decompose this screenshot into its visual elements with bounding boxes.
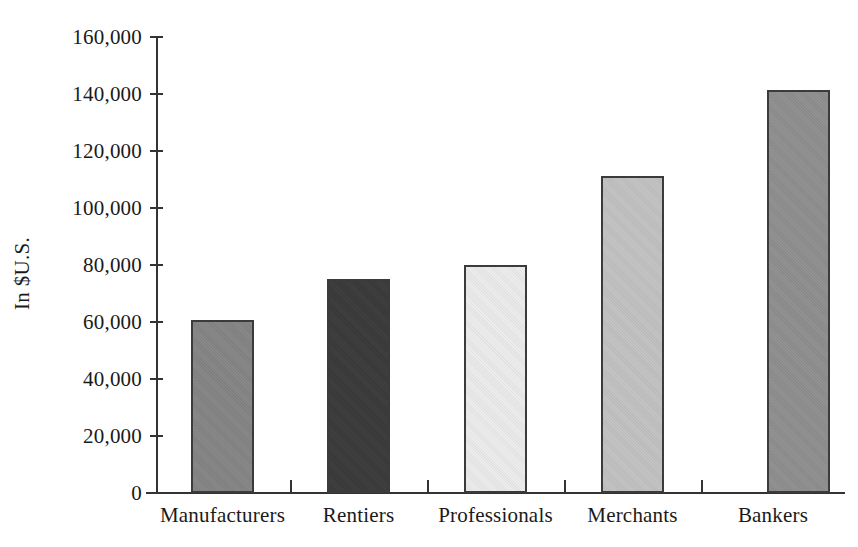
bar-rentiers[interactable] [327, 279, 390, 493]
y-axis-tick [150, 207, 163, 209]
x-axis-tick [290, 480, 292, 493]
x-category-label-manufacturers: Manufacturers [146, 503, 299, 528]
y-tick-label: 60,000 [30, 310, 142, 335]
y-tick-label: 0 [30, 481, 142, 506]
y-tick-label: 140,000 [30, 82, 142, 107]
bar-merchants[interactable] [601, 176, 664, 493]
y-axis-tick [150, 150, 163, 152]
x-axis-tick [701, 480, 703, 493]
x-axis-tick [564, 480, 566, 493]
y-tick-label: 80,000 [30, 253, 142, 278]
y-axis-tick [150, 36, 163, 38]
x-category-label-merchants: Merchants [564, 503, 701, 528]
y-tick-label: 120,000 [30, 139, 142, 164]
bar-bankers[interactable] [767, 90, 830, 493]
bar-manufacturers[interactable] [191, 320, 254, 493]
y-axis-tick [150, 264, 163, 266]
y-tick-label: 20,000 [30, 424, 142, 449]
x-category-label-bankers: Bankers [701, 503, 845, 528]
y-axis-tick [150, 93, 163, 95]
x-category-label-professionals: Professionals [424, 503, 567, 528]
y-axis-tick-labels: 160,000 140,000 120,000 100,000 80,000 6… [30, 0, 142, 547]
bar-professionals[interactable] [464, 265, 527, 493]
bar-chart: In $U.S. 160,000 140,000 120,000 100,000… [0, 0, 858, 547]
x-category-label-rentiers: Rentiers [290, 503, 427, 528]
y-tick-label: 100,000 [30, 196, 142, 221]
y-axis-tick [150, 321, 163, 323]
x-axis-tick [427, 480, 429, 493]
y-tick-label: 40,000 [30, 367, 142, 392]
y-axis-tick [150, 435, 163, 437]
y-tick-label: 160,000 [30, 25, 142, 50]
y-axis-tick [150, 378, 163, 380]
